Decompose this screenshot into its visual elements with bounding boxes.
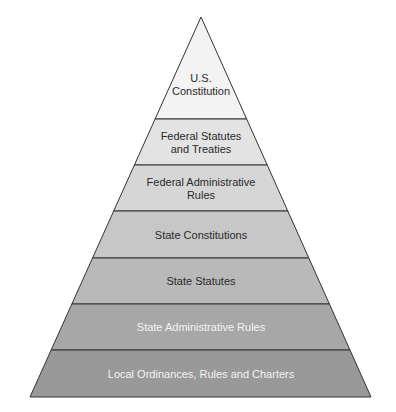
label-line: Constitution	[172, 85, 230, 98]
label-line: Rules	[147, 189, 256, 202]
level-label-state-constitutions: State Constitutions	[155, 229, 247, 242]
label-line: State Constitutions	[155, 229, 247, 242]
pyramid-diagram: U.S. Constitution Federal Statutes and T…	[0, 0, 396, 412]
level-label-state-statutes: State Statutes	[166, 275, 235, 288]
label-line: Local Ordinances, Rules and Charters	[108, 368, 294, 381]
label-line: and Treaties	[161, 143, 242, 156]
label-line: U.S.	[172, 72, 230, 85]
level-label-local-ordinances: Local Ordinances, Rules and Charters	[108, 368, 294, 381]
label-line: State Statutes	[166, 275, 235, 288]
level-label-federal-admin-rules: Federal Administrative Rules	[147, 176, 256, 202]
level-label-us-constitution: U.S. Constitution	[172, 72, 230, 98]
label-line: Federal Statutes	[161, 130, 242, 143]
label-line: State Administrative Rules	[137, 321, 265, 334]
pyramid-band-0	[155, 17, 247, 119]
pyramid-shape	[0, 0, 396, 412]
label-line: Federal Administrative	[147, 176, 256, 189]
level-label-state-admin-rules: State Administrative Rules	[137, 321, 265, 334]
level-label-federal-statutes: Federal Statutes and Treaties	[161, 130, 242, 156]
